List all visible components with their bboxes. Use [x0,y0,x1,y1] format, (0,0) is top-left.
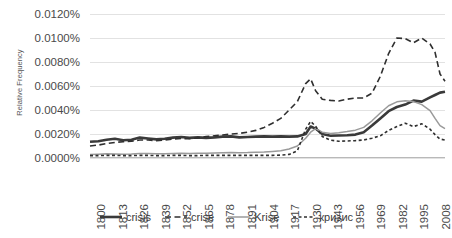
legend-item[interactable]: crise [164,211,214,223]
y-axis-tick-label: 0.0080% [35,56,80,68]
legend-item[interactable]: crisis [99,211,151,223]
plot-area [90,14,445,158]
y-axis-tick-label: 0.0000% [35,152,80,164]
legend-line-swatch [292,212,316,222]
y-axis-tick-label: 0.0060% [35,80,80,92]
y-axis-tick-label: 0.0020% [35,128,80,140]
y-axis-tick-label: 0.0120% [35,8,80,20]
y-axis-tick-label: 0.0040% [35,104,80,116]
legend-label: кризис [319,211,353,223]
x-axis-tick-labels: 1800181318261839185218651878189119041917… [90,160,445,206]
x-axis-line [90,157,445,158]
legend-label: crisis [126,211,151,223]
legend-item[interactable]: Krise [227,211,279,223]
legend-line-swatch [164,212,188,222]
relative-frequency-line-chart: Relative Frequency 0.0120%0.0100%0.0080%… [0,0,452,238]
legend-line-swatch [227,212,251,222]
legend-item[interactable]: кризис [292,211,353,223]
y-axis-tick-labels: 0.0120%0.0100%0.0080%0.0060%0.0040%0.002… [12,0,84,172]
series-line-crisis [90,92,445,142]
gridline [90,158,445,159]
chart-legend: crisiscriseKriseкризис [0,211,452,223]
legend-label: Krise [254,211,279,223]
legend-label: crise [191,211,214,223]
y-axis-tick-label: 0.0100% [35,32,80,44]
legend-line-swatch [99,212,123,222]
series-lines [90,14,445,158]
